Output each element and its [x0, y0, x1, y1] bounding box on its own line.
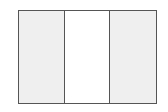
center-stripe — [65, 11, 110, 103]
right-stripe — [110, 11, 156, 103]
left-stripe — [19, 11, 65, 103]
triband-flag-icon — [18, 10, 157, 104]
